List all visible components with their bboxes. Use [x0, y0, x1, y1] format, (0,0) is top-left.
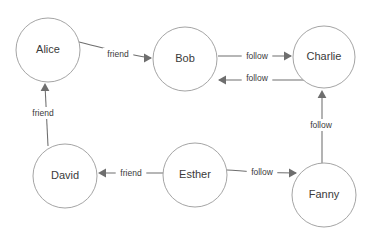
- arrowhead-icon-alice-bob: [144, 54, 152, 63]
- edge-label-esther-david: friend: [120, 168, 142, 178]
- graph-edge-esther-fanny[interactable]: follow: [227, 166, 297, 178]
- arrowhead-icon-bob-charlie: [284, 52, 292, 61]
- graph-edge-esther-david[interactable]: friend: [98, 167, 163, 179]
- arrowhead-icon-fanny-charlie: [318, 90, 327, 98]
- edge-label-david-alice: friend: [32, 108, 54, 118]
- edge-label-esther-fanny: follow: [251, 167, 274, 177]
- arrowhead-icon-esther-david: [98, 169, 106, 178]
- graph-edge-bob-charlie[interactable]: follow: [218, 50, 292, 62]
- arrowhead-icon-david-alice: [41, 83, 50, 91]
- arrowhead-icon-esther-fanny: [289, 169, 297, 178]
- node-label-charlie: Charlie: [307, 50, 342, 62]
- top-edge-artifact: [0, 0, 371, 4]
- graph-edge-alice-bob[interactable]: friend: [79, 42, 152, 62]
- graph-node-alice[interactable]: Alice: [16, 18, 80, 82]
- nodes-layer: AliceBobCharlieDavidEstherFanny: [16, 18, 356, 227]
- graph-node-bob[interactable]: Bob: [153, 27, 217, 91]
- edge-label-bob-charlie: follow: [246, 51, 269, 61]
- node-label-esther: Esther: [179, 168, 211, 180]
- graph-node-charlie[interactable]: Charlie: [293, 26, 355, 88]
- graph-edge-david-alice[interactable]: friend: [28, 83, 59, 146]
- edge-label-fanny-charlie: follow: [310, 120, 333, 130]
- edge-label-alice-bob: friend: [107, 49, 129, 59]
- graph-node-fanny[interactable]: Fanny: [292, 163, 356, 227]
- node-label-fanny: Fanny: [309, 188, 340, 200]
- graph-diagram-canvas: friendfollowfollowfriendfriendfollowfoll…: [0, 0, 371, 237]
- graph-node-esther[interactable]: Esther: [163, 143, 227, 207]
- graph-svg: friendfollowfollowfriendfriendfollowfoll…: [0, 0, 371, 237]
- node-label-david: David: [51, 169, 79, 181]
- node-label-bob: Bob: [175, 52, 195, 64]
- arrowhead-icon-charlie-bob: [218, 76, 226, 85]
- edge-label-charlie-bob: follow: [246, 73, 269, 83]
- graph-edge-fanny-charlie[interactable]: follow: [306, 90, 337, 163]
- node-label-alice: Alice: [36, 43, 60, 55]
- graph-node-david[interactable]: David: [33, 144, 97, 208]
